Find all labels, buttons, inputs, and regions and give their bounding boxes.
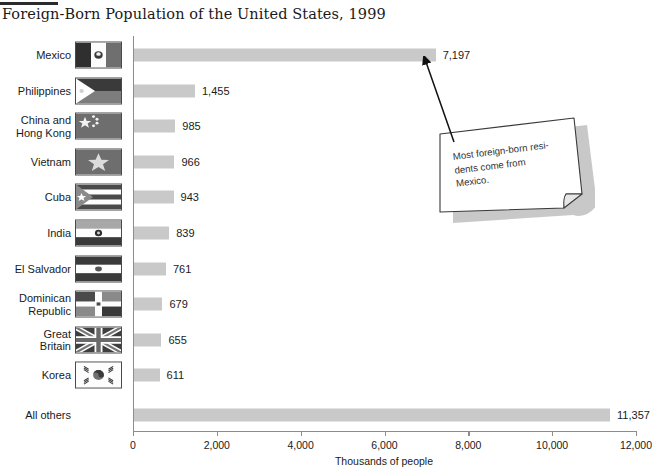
bar-row: Korea 611 — [0, 360, 653, 390]
flag-great-britain-icon — [75, 326, 122, 353]
bar-row: Dominican Republic 679 — [0, 289, 653, 319]
flag-china-icon — [75, 113, 122, 140]
row-label: El Salvador — [0, 262, 71, 275]
bar-value-label: 985 — [182, 120, 200, 132]
flag-korea-icon — [75, 362, 122, 389]
x-tick — [385, 431, 386, 436]
bar-row: Mexico 7,197 — [0, 40, 653, 70]
row-label: All others — [0, 409, 71, 422]
bar — [134, 191, 174, 204]
x-tick-label: 12,000 — [620, 439, 652, 451]
bar — [134, 298, 162, 311]
title-rule — [0, 2, 58, 5]
row-label: Mexico — [0, 49, 71, 62]
bar-value-label: 1,455 — [202, 85, 230, 97]
row-label: Dominican Republic — [0, 292, 71, 317]
row-label: Great Britain — [0, 327, 71, 352]
bar — [134, 409, 610, 422]
flag-dominican-icon — [75, 291, 122, 318]
callout-note: Most foreign-born resi- dents come from … — [430, 112, 595, 227]
bar — [134, 227, 169, 240]
x-tick-label: 8,000 — [455, 439, 481, 451]
row-label: Korea — [0, 369, 71, 382]
bar — [134, 262, 166, 275]
x-tick-label: 10,000 — [536, 439, 568, 451]
x-axis-title: Thousands of people — [335, 455, 433, 467]
bar-value-label: 943 — [181, 191, 199, 203]
row-label: Philippines — [0, 84, 71, 97]
bar-row: Great Britain 655 — [0, 325, 653, 355]
x-tick-label: 2,000 — [204, 439, 230, 451]
bar — [134, 49, 436, 62]
flag-el-salvador-icon — [75, 255, 122, 282]
flag-india-icon — [75, 220, 122, 247]
bar — [134, 369, 160, 382]
x-tick — [552, 431, 553, 436]
row-label: Vietnam — [0, 156, 71, 169]
x-tick — [133, 431, 134, 436]
callout-arrow-icon — [420, 56, 490, 146]
bar — [134, 84, 195, 97]
row-label: China and Hong Kong — [0, 114, 71, 139]
bar-value-label: 11,357 — [617, 409, 650, 421]
bar-value-label: 611 — [167, 369, 185, 381]
x-tick — [636, 431, 637, 436]
bar — [134, 333, 161, 346]
x-tick-label: 6,000 — [371, 439, 397, 451]
bar-row: El Salvador 761 — [0, 254, 653, 284]
bar-value-label: 761 — [173, 263, 191, 275]
x-tick-label: 0 — [130, 439, 136, 451]
bar-value-label: 839 — [176, 227, 194, 239]
chart-container: Foreign-Born Population of the United St… — [0, 0, 653, 470]
bar-value-label: 679 — [169, 298, 187, 310]
x-tick — [468, 431, 469, 436]
x-tick — [217, 431, 218, 436]
row-label: Cuba — [0, 191, 71, 204]
row-label: India — [0, 227, 71, 240]
flag-cuba-icon — [75, 184, 122, 211]
bar-value-label: 655 — [168, 334, 186, 346]
bar — [134, 155, 174, 168]
bar-row: Philippines 1,455 — [0, 76, 653, 106]
bar — [134, 120, 175, 133]
flag-philippines-icon — [75, 77, 122, 104]
flag-vietnam-icon — [75, 148, 122, 175]
x-tick-label: 4,000 — [288, 439, 314, 451]
chart-title: Foreign-Born Population of the United St… — [2, 6, 386, 22]
flag-mexico-icon — [75, 42, 122, 69]
x-tick — [301, 431, 302, 436]
bar-row: All others11,357 — [0, 400, 653, 430]
bar-value-label: 966 — [181, 156, 199, 168]
